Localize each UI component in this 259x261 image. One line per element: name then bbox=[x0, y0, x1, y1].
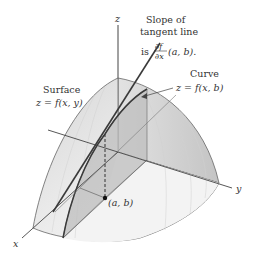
curve-title: Curve bbox=[190, 68, 219, 79]
surface-title: Surface bbox=[43, 84, 81, 95]
slope-frac-numerator: ∂f bbox=[155, 42, 164, 51]
z-axis-label: z bbox=[114, 13, 121, 24]
slope-frac-denominator: ∂x bbox=[155, 52, 164, 61]
slope-frac-args: (a, b). bbox=[168, 46, 196, 57]
y-axis-label: y bbox=[235, 183, 242, 194]
slope-label-line1: Slope of bbox=[146, 14, 187, 25]
curve-equation: z = f(x, b) bbox=[175, 82, 224, 93]
point-label: (a, b) bbox=[108, 197, 133, 208]
point-ab bbox=[103, 196, 107, 200]
surface-equation: z = f(x, y) bbox=[35, 97, 83, 108]
slope-label-line2: tangent line bbox=[140, 26, 198, 37]
slope-label-is: is bbox=[141, 46, 149, 57]
partial-derivative-diagram: z y x Slope of tangent line is ∂f ∂x (a,… bbox=[0, 0, 259, 261]
x-axis-label: x bbox=[13, 238, 19, 249]
